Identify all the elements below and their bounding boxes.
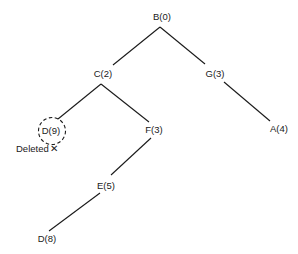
- node-d9: D(9): [42, 125, 60, 136]
- edge-c2-d9: [58, 84, 101, 119]
- deleted-x-icon: ✕: [50, 143, 58, 154]
- edge-b0-g3: [160, 27, 205, 64]
- node-e5: E(5): [97, 180, 115, 191]
- edge-f3-e5: [111, 138, 151, 175]
- node-c2: C(2): [94, 68, 112, 79]
- node-d8: D(8): [38, 233, 56, 244]
- node-g3: G(3): [206, 68, 225, 79]
- edge-g3-a4: [224, 82, 270, 121]
- node-f3: F(3): [145, 124, 162, 135]
- deleted-label: Deleted: [16, 143, 49, 154]
- edge-c2-f3: [101, 84, 149, 122]
- edge-b0-c2: [113, 27, 160, 65]
- edge-e5-d8: [49, 193, 100, 231]
- node-b0: B(0): [153, 11, 171, 22]
- tree-diagram: B(0) C(2) G(3) D(9) F(3) A(4) E(5) D(8) …: [0, 0, 298, 254]
- node-a4: A(4): [270, 123, 288, 134]
